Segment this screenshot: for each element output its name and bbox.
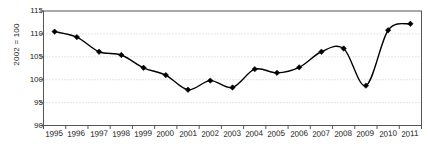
x-axis-label-2011: 2011	[401, 130, 419, 139]
x-axis-label-1995: 1995	[45, 130, 63, 139]
x-axis-label-2005: 2005	[267, 130, 285, 139]
data-point-2001	[185, 87, 190, 92]
x-axis-label-2000: 2000	[156, 130, 174, 139]
x-axis-label-1996: 1996	[67, 130, 85, 139]
data-point-2006	[297, 65, 302, 70]
data-point-1999	[141, 65, 146, 70]
x-axis-label-1998: 1998	[112, 130, 130, 139]
data-point-2011	[408, 21, 413, 26]
data-point-2003	[230, 85, 235, 90]
line-chart: 2002 = 100 9095100105110115 199519961997…	[0, 0, 435, 151]
data-point-2007	[319, 49, 324, 54]
x-axis-label-2006: 2006	[290, 130, 308, 139]
x-axis-label-2010: 2010	[379, 130, 397, 139]
x-axis-label-2001: 2001	[179, 130, 197, 139]
x-axis-label-2003: 2003	[223, 130, 241, 139]
data-point-1997	[96, 49, 101, 54]
x-axis-label-2007: 2007	[312, 130, 330, 139]
plot-border	[44, 11, 422, 126]
data-point-2004	[252, 66, 257, 71]
data-point-2002	[208, 78, 213, 83]
x-axis-label-2009: 2009	[356, 130, 374, 139]
data-point-2005	[274, 70, 279, 75]
x-axis-label-1999: 1999	[134, 130, 152, 139]
x-axis-label-1997: 1997	[90, 130, 108, 139]
data-point-1996	[74, 34, 79, 39]
x-axis-label-2002: 2002	[201, 130, 219, 139]
x-axis-label-2008: 2008	[334, 130, 352, 139]
x-axis-label-2004: 2004	[245, 130, 263, 139]
